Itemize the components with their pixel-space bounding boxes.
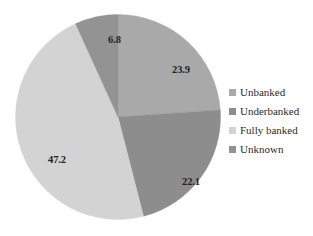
legend-item-unbanked[interactable]: Unbanked	[229, 83, 313, 101]
legend-item-fully-banked[interactable]: Fully banked	[229, 121, 313, 139]
pie-slice-unbanked[interactable]	[118, 15, 220, 118]
legend-label-unknown: Unknown	[240, 144, 283, 155]
pie-slice-label-unknown: 6.8	[108, 35, 121, 46]
legend-swatch-icon-unbanked	[229, 89, 236, 96]
chart-legend: Unbanked Underbanked Fully banked Unknow…	[229, 83, 313, 159]
legend-item-underbanked[interactable]: Underbanked	[229, 102, 313, 120]
legend-swatch-icon-underbanked	[229, 108, 236, 115]
legend-item-unknown[interactable]: Unknown	[229, 140, 313, 158]
pie-chart-figure: 6.8 23.9 22.1 47.2 Unbanked Underbanked …	[0, 0, 313, 236]
legend-label-fully-banked: Fully banked	[240, 125, 298, 136]
legend-label-unbanked: Unbanked	[240, 87, 285, 98]
legend-swatch-icon-unknown	[229, 146, 236, 153]
pie-slice-label-fully-banked: 47.2	[48, 155, 66, 166]
pie-slice-label-unbanked: 23.9	[172, 65, 190, 76]
legend-label-underbanked: Underbanked	[240, 106, 299, 117]
pie-slice-label-underbanked: 22.1	[182, 177, 200, 188]
legend-swatch-icon-fully-banked	[229, 127, 236, 134]
pie-plot-area: 6.8 23.9 22.1 47.2	[15, 14, 221, 220]
